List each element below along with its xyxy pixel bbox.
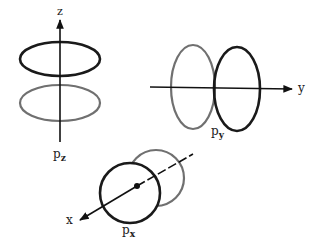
pz-orbital: z pz bbox=[20, 5, 100, 163]
py-label: py bbox=[211, 124, 225, 140]
py-orbital: y py bbox=[150, 45, 305, 140]
px-orbital: x px bbox=[66, 150, 193, 239]
p-orbitals-diagram: z pz y py x px bbox=[0, 0, 319, 244]
origin-dot bbox=[134, 183, 140, 189]
y-axis-label: y bbox=[297, 81, 305, 95]
diagram-svg: z pz y py x px bbox=[0, 0, 319, 244]
x-axis-label: x bbox=[66, 213, 73, 227]
px-label: px bbox=[122, 223, 136, 239]
pz-label: pz bbox=[53, 147, 66, 163]
z-axis-label: z bbox=[57, 5, 63, 18]
px-front-lobe bbox=[100, 163, 160, 223]
